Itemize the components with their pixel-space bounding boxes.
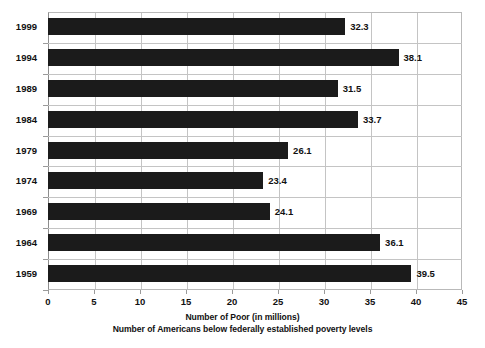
x-axis-tick	[232, 290, 233, 294]
bar	[48, 18, 345, 35]
x-axis-tick	[186, 290, 187, 294]
x-axis-tick	[94, 290, 95, 294]
y-axis-category-label: 1964	[0, 228, 44, 259]
bar	[48, 265, 411, 282]
x-axis-tick	[462, 290, 463, 294]
bar-value-label: 36.1	[380, 234, 404, 251]
x-axis-tick-label: 40	[396, 296, 436, 307]
bar-row: 38.1	[48, 43, 462, 74]
bar-value-label: 26.1	[288, 142, 312, 159]
bar	[48, 234, 380, 251]
row-separator	[48, 228, 462, 229]
x-axis-title: Number of Poor (in millions)	[0, 312, 485, 324]
bar-value-label: 32.3	[345, 18, 369, 35]
x-axis-tick	[278, 290, 279, 294]
bar-value-label: 33.7	[358, 111, 382, 128]
row-separator	[48, 197, 462, 198]
bar-value-label: 39.5	[411, 265, 435, 282]
bar-value-label: 38.1	[399, 49, 423, 66]
row-separator	[48, 259, 462, 260]
row-separator	[48, 136, 462, 137]
x-axis-tick-label: 0	[28, 296, 68, 307]
x-axis-tick	[416, 290, 417, 294]
bar-row: 36.1	[48, 228, 462, 259]
row-separator	[48, 74, 462, 75]
bar-value-label: 31.5	[338, 80, 362, 97]
y-axis-category-label: 1989	[0, 74, 44, 105]
bar-value-label: 24.1	[270, 203, 294, 220]
y-axis-category-label: 1969	[0, 197, 44, 228]
x-axis-tick-label: 5	[74, 296, 114, 307]
bar-row: 33.7	[48, 105, 462, 136]
bar	[48, 49, 399, 66]
row-separator	[48, 166, 462, 167]
axis-titles: Number of Poor (in millions) Number of A…	[0, 312, 485, 335]
bar	[48, 142, 288, 159]
y-axis-category-label: 1999	[0, 12, 44, 43]
bar-value-label: 23.4	[263, 172, 287, 189]
x-axis-tick-label: 25	[258, 296, 298, 307]
x-axis-tick-label: 45	[442, 296, 482, 307]
x-axis-tick	[140, 290, 141, 294]
row-separator	[48, 105, 462, 106]
bar-row: 31.5	[48, 74, 462, 105]
bar	[48, 111, 358, 128]
bar	[48, 203, 270, 220]
x-axis-tick-label: 15	[166, 296, 206, 307]
bar-row: 32.3	[48, 12, 462, 43]
y-axis-category-label: 1979	[0, 136, 44, 167]
x-axis-tick-label: 20	[212, 296, 252, 307]
bar-row: 26.1	[48, 136, 462, 167]
poverty-bar-chart: 199919941989198419791974196919641959 32.…	[0, 0, 485, 348]
y-axis-category-label: 1994	[0, 43, 44, 74]
bar-row: 24.1	[48, 197, 462, 228]
x-axis-tick-label: 30	[304, 296, 344, 307]
y-axis-category-label: 1984	[0, 105, 44, 136]
bar-row: 23.4	[48, 166, 462, 197]
bar-row: 39.5	[48, 259, 462, 290]
x-axis-tick	[370, 290, 371, 294]
x-axis-tick	[48, 290, 49, 294]
y-axis-category-label: 1959	[0, 259, 44, 290]
row-separator	[48, 43, 462, 44]
x-axis-tick-label: 10	[120, 296, 160, 307]
y-axis-category-label: 1974	[0, 166, 44, 197]
bar	[48, 80, 338, 97]
bar	[48, 172, 263, 189]
x-axis-tick-label: 35	[350, 296, 390, 307]
x-axis-subtitle: Number of Americans below federally esta…	[0, 324, 485, 336]
x-axis-tick	[324, 290, 325, 294]
bar-rows: 32.338.131.533.726.123.424.136.139.5	[48, 12, 462, 290]
